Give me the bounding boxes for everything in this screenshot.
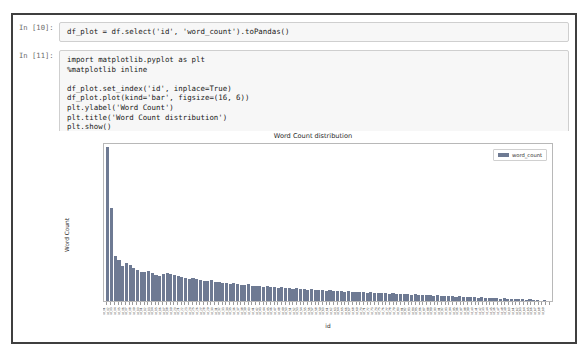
bar — [129, 265, 132, 301]
bar — [484, 298, 487, 301]
bar — [377, 293, 380, 301]
code-line: df_plot.plot(kind='bar', figsize=(16, 6)… — [67, 93, 562, 103]
bar — [451, 296, 454, 301]
x-axis-label: id — [103, 323, 553, 329]
bar — [417, 295, 420, 301]
bar — [354, 292, 357, 301]
bar — [132, 268, 135, 301]
bar — [454, 297, 457, 301]
code-line: plt.ylabel('Word Count') — [67, 103, 562, 113]
bar — [384, 293, 387, 301]
bar — [462, 297, 465, 301]
bar — [314, 290, 317, 301]
bar — [369, 292, 372, 301]
bar — [336, 291, 339, 301]
bar — [373, 293, 376, 301]
bar — [443, 296, 446, 301]
bar — [491, 298, 494, 301]
cell-prompt-in-11: In [11]: — [13, 50, 59, 61]
bar — [380, 293, 383, 301]
bar — [217, 282, 220, 301]
code-editor-in-10[interactable]: df_plot = df.select('id', 'word_count').… — [59, 22, 569, 42]
code-editor-in-11[interactable]: import matplotlib.pyplot as plt %matplot… — [59, 50, 569, 137]
bar — [362, 292, 365, 301]
bar — [366, 293, 369, 301]
bar — [277, 288, 280, 301]
bar — [110, 208, 113, 301]
bar — [158, 276, 161, 301]
bar — [173, 275, 176, 301]
bar — [191, 278, 194, 301]
bar — [240, 285, 243, 301]
bar — [310, 289, 313, 301]
bar — [395, 294, 398, 301]
code-line: import matplotlib.pyplot as plt — [67, 55, 562, 65]
bar — [229, 284, 232, 301]
bar — [306, 290, 309, 301]
bar — [421, 295, 424, 301]
bar — [425, 295, 428, 301]
bar — [347, 291, 350, 301]
bar — [388, 294, 391, 301]
bar — [136, 270, 139, 301]
bar — [288, 288, 291, 301]
bar — [303, 289, 306, 301]
code-cell-in-10[interactable]: In [10]: df_plot = df.select('id', 'word… — [13, 22, 575, 42]
bar — [351, 292, 354, 301]
bar — [162, 274, 165, 301]
bar — [262, 287, 265, 301]
bar — [532, 300, 535, 301]
bar — [391, 293, 394, 301]
bar — [243, 285, 246, 301]
bar — [166, 273, 169, 301]
bar — [106, 147, 109, 301]
bar — [410, 295, 413, 301]
bar — [325, 291, 328, 301]
bar — [210, 280, 213, 301]
bar — [140, 272, 143, 301]
bar — [114, 256, 117, 301]
x-axis-tick-labels: id_00id_01id_02id_03id_04id_05id_06id_07… — [103, 303, 553, 319]
bar — [358, 292, 361, 301]
y-axis-tick-mark — [103, 149, 104, 150]
bar-series-word-count — [104, 144, 552, 301]
bar — [280, 287, 283, 301]
bar — [340, 291, 343, 301]
code-line: %matplotlib inline — [67, 65, 562, 75]
bar — [328, 290, 331, 301]
bar — [517, 299, 520, 301]
bar — [469, 297, 472, 301]
plot-area: word_count 050100150200250300 — [103, 143, 553, 302]
bar — [506, 299, 509, 301]
bar — [147, 271, 150, 301]
bar — [499, 299, 502, 301]
bar — [477, 298, 480, 301]
bar — [177, 276, 180, 301]
y-axis-label: Word Count — [64, 218, 70, 252]
bar — [203, 281, 206, 301]
cell-output-figure: Word Count distribution Word Count word_… — [13, 131, 579, 344]
bar — [117, 260, 120, 301]
bar — [299, 289, 302, 301]
bar — [151, 273, 154, 301]
y-axis-tick-mark — [103, 174, 104, 175]
code-line: df_plot = df.select('id', 'word_count').… — [67, 27, 562, 37]
bar — [540, 301, 543, 302]
bar — [514, 299, 517, 301]
bar — [154, 275, 157, 301]
bar — [214, 282, 217, 301]
bar — [525, 300, 528, 301]
bar — [236, 284, 239, 301]
bar — [269, 287, 272, 301]
bar — [247, 284, 250, 301]
bar — [343, 292, 346, 301]
code-cell-in-11[interactable]: In [11]: import matplotlib.pyplot as plt… — [13, 50, 575, 137]
bar — [458, 296, 461, 301]
bar — [547, 301, 550, 302]
bar — [199, 280, 202, 301]
chart-legend[interactable]: word_count — [493, 149, 547, 161]
bar — [232, 283, 235, 301]
bar — [332, 291, 335, 301]
bar — [440, 296, 443, 301]
bar — [169, 274, 172, 301]
